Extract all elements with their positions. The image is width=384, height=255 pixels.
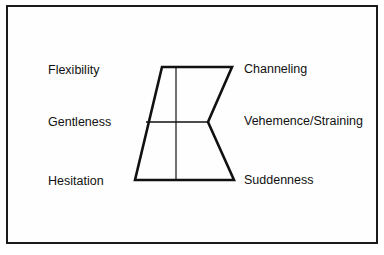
label-channeling: Channeling: [244, 62, 307, 76]
label-flexibility: Flexibility: [48, 63, 99, 77]
label-suddenness: Suddenness: [244, 173, 314, 187]
label-vehemence-straining: Vehemence/Straining: [244, 114, 363, 128]
label-gentleness: Gentleness: [48, 115, 111, 129]
shape-outline: [135, 67, 234, 180]
label-hesitation: Hesitation: [48, 174, 104, 188]
